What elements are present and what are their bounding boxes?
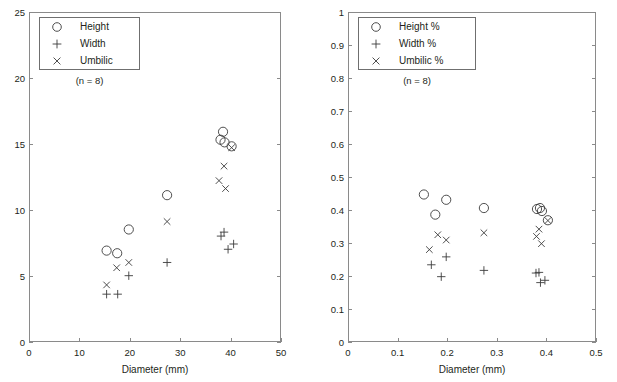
x-tick: [180, 338, 181, 342]
circle-marker: [535, 203, 544, 212]
panel-ratio-measurements: 00.10.20.30.40.500.10.20.30.40.50.60.70.…: [308, 0, 617, 382]
legend-label: Height: [74, 21, 109, 32]
x-tick-label: 0.4: [540, 347, 553, 358]
x-tick-label: 0.1: [391, 347, 404, 358]
y-tick-label: 1: [318, 7, 344, 18]
circle-marker: [162, 191, 171, 200]
y-tick-right: [277, 210, 281, 211]
panel-absolute-measurements: 010203040500510152025 HeightWidthUmbilic…: [0, 0, 308, 382]
cross-marker: [126, 259, 133, 266]
y-tick-right: [592, 12, 596, 13]
y-tick: [348, 177, 352, 178]
x-tick-label: 0.2: [441, 347, 454, 358]
plus-marker: [125, 271, 133, 279]
x-axis-label-ratio: Diameter (mm): [439, 364, 506, 375]
y-tick-label: 0.2: [318, 271, 344, 282]
cross-marker: [103, 282, 110, 289]
y-tick-right: [592, 144, 596, 145]
x-tick: [130, 338, 131, 342]
y-tick-right: [277, 12, 281, 13]
circle-marker: [419, 190, 428, 199]
sample-size-note-ratio: (n = 8): [403, 75, 431, 86]
x-tick: [447, 338, 448, 342]
y-tick-label: 0.6: [318, 139, 344, 150]
y-tick-label: 0.7: [318, 106, 344, 117]
y-tick: [348, 12, 352, 13]
cross-marker: [533, 233, 540, 240]
cross-marker: [216, 177, 223, 184]
y-tick-label: 0: [0, 337, 25, 348]
y-tick-right: [592, 78, 596, 79]
y-tick: [348, 342, 352, 343]
y-tick-right: [592, 45, 596, 46]
two-panel-scatter-figure: 010203040500510152025 HeightWidthUmbilic…: [0, 0, 617, 382]
y-tick: [348, 243, 352, 244]
y-tick-label: 0.8: [318, 73, 344, 84]
y-tick-label: 0.9: [318, 40, 344, 51]
legend-label: Width: [74, 38, 106, 49]
x-tick: [231, 338, 232, 342]
plus-marker: [480, 266, 488, 274]
x-tick: [546, 338, 547, 342]
plus-marker: [536, 278, 544, 286]
y-tick-right: [592, 276, 596, 277]
legend-label: Umbilic: [74, 55, 113, 66]
x-tick: [79, 338, 80, 342]
x-tick-label: 0.3: [490, 347, 503, 358]
circle-marker: [40, 20, 74, 34]
y-tick: [348, 78, 352, 79]
y-tick: [29, 144, 33, 145]
x-tick: [281, 338, 282, 342]
cross-marker: [113, 264, 120, 271]
circle-marker: [124, 225, 133, 234]
y-tick-label: 10: [0, 205, 25, 216]
legend-ratio: Height %Width %Umbilic %: [358, 17, 476, 70]
cross-marker: [164, 218, 171, 225]
cross-marker: [222, 185, 229, 192]
plus-marker: [40, 37, 74, 51]
sample-size-note-absolute: (n = 8): [76, 75, 104, 86]
y-tick-label: 0.1: [318, 304, 344, 315]
y-tick: [29, 210, 33, 211]
x-axis-label-absolute: Diameter (mm): [122, 364, 189, 375]
circle-marker: [359, 20, 393, 34]
y-tick-right: [592, 243, 596, 244]
x-tick: [596, 338, 597, 342]
y-tick: [29, 12, 33, 13]
y-tick-right: [277, 144, 281, 145]
cross-marker: [426, 246, 433, 253]
circle-marker: [218, 127, 227, 136]
x-tick-label: 20: [125, 347, 136, 358]
plus-marker: [113, 290, 121, 298]
y-tick-right: [592, 177, 596, 178]
y-tick-label: 25: [0, 7, 25, 18]
cross-marker: [40, 54, 74, 68]
plus-marker: [359, 37, 393, 51]
x-tick-label: 30: [175, 347, 186, 358]
circle-marker: [479, 203, 488, 212]
y-tick: [29, 276, 33, 277]
legend-entry: Width: [40, 35, 139, 52]
y-tick: [348, 210, 352, 211]
plus-marker: [163, 258, 171, 266]
cross-marker: [481, 230, 488, 237]
y-tick: [348, 144, 352, 145]
legend-label: Height %: [393, 21, 440, 32]
plus-marker: [437, 272, 445, 280]
y-tick-label: 0.5: [318, 172, 344, 183]
circle-marker: [102, 246, 111, 255]
y-tick: [348, 45, 352, 46]
y-tick: [29, 342, 33, 343]
cross-marker: [536, 226, 543, 233]
y-tick: [348, 309, 352, 310]
x-tick-label: 10: [74, 347, 85, 358]
x-tick: [398, 338, 399, 342]
circle-marker: [442, 195, 451, 204]
y-tick-label: 5: [0, 271, 25, 282]
y-tick-label: 20: [0, 73, 25, 84]
x-tick-label: 0: [345, 347, 350, 358]
cross-marker: [435, 231, 442, 238]
y-tick-right: [592, 309, 596, 310]
y-tick: [348, 111, 352, 112]
cross-marker: [538, 240, 545, 247]
